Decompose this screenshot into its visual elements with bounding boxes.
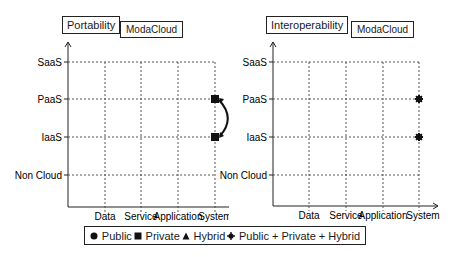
legend-label: Public [102,230,132,242]
y-label-iaas: IaaS [41,132,62,143]
triangle-icon [182,232,190,240]
y-label-iaas: IaaS [246,132,267,143]
legend-label: Hybrid [194,230,226,242]
y-label-paas: PaaS [38,94,63,105]
legend-label: Public + Private + Hybrid [239,230,360,242]
all-types-marker [415,95,423,103]
circle-icon [90,232,98,240]
all-types-marker [415,133,423,141]
portability-panel: Portability ModaCloud SaaS PaaS IaaS Non… [0,0,229,222]
private-marker [211,133,219,141]
x-label-system: System [406,210,439,221]
x-label-data: Data [298,210,320,221]
transition-arrow [219,100,228,136]
legend: Public Private Hybrid Public + Private +… [84,226,366,245]
y-label-saas: SaaS [243,57,268,68]
legend-item-hybrid: Hybrid [182,230,226,242]
portability-grid: SaaS PaaS IaaS Non Cloud Data Service Ap… [0,0,229,222]
legend-label: Private [146,230,180,242]
x-label-application: Application [359,210,408,221]
y-label-noncloud: Non Cloud [15,170,62,181]
square-icon [134,232,142,240]
private-marker [211,95,219,103]
y-label-saas: SaaS [38,57,63,68]
y-label-paas: PaaS [243,94,268,105]
x-label-application: Application [154,211,203,222]
star-icon [227,232,235,240]
x-label-system: System [198,211,229,222]
legend-item-private: Private [134,230,180,242]
x-label-data: Data [94,211,116,222]
legend-item-all: Public + Private + Hybrid [227,230,360,242]
interoperability-panel: Interoperability ModaCloud SaaS PaaS Iaa… [229,0,458,222]
legend-item-public: Public [90,230,132,242]
y-label-noncloud: Non Cloud [220,170,267,181]
interoperability-grid: SaaS PaaS IaaS Non Cloud Data Service Ap… [229,0,458,222]
